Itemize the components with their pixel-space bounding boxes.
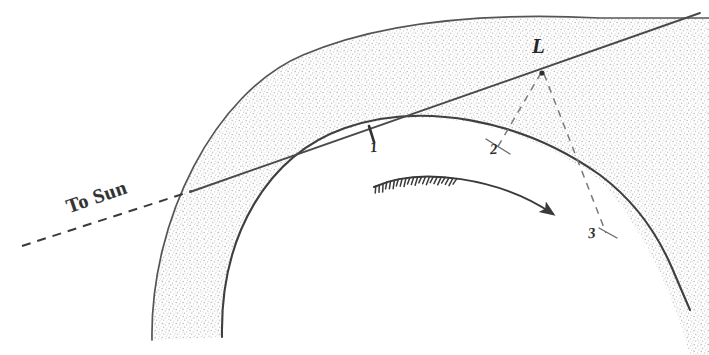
point-label-1: 1: [369, 140, 378, 156]
diagram-canvas: [0, 0, 709, 355]
motion-arrow: [374, 177, 553, 214]
point-label-3: 3: [587, 226, 596, 242]
nucleus-point-L: [539, 70, 544, 75]
comet-head-label-L: L: [532, 36, 545, 57]
stippled-tail-band: [152, 16, 709, 355]
tick-mark-point-3: [599, 228, 617, 238]
point-label-2: 2: [489, 142, 498, 157]
comet-diagram-figure: To Sun L 1 2 3: [0, 0, 709, 355]
